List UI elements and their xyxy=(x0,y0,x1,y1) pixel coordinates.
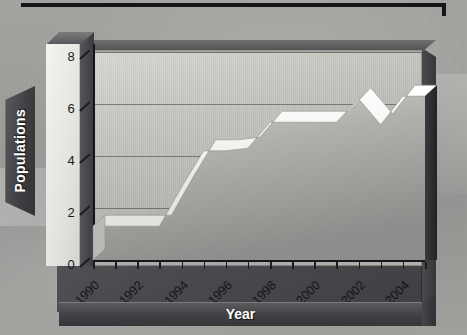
x-axis-tick xyxy=(270,262,272,269)
x-axis-tick xyxy=(182,262,184,269)
x-axis-tick xyxy=(248,262,250,269)
x-axis-tick xyxy=(226,262,228,269)
x-axis-tick xyxy=(204,262,206,269)
x-axis-tick xyxy=(314,262,316,269)
x-axis-tick xyxy=(425,262,427,269)
x-axis-tick xyxy=(359,262,361,269)
chart-container: 02468 19901992199419961998200020022004 Y… xyxy=(33,20,436,312)
x-axis-tick xyxy=(159,262,161,269)
x-axis-tick xyxy=(137,262,139,269)
x-axis-label-plate: Year xyxy=(59,302,422,326)
top-divider-rule-cap xyxy=(442,3,446,16)
y-axis-label: Populations xyxy=(12,109,28,192)
top-divider-rule xyxy=(21,3,446,7)
y-axis-label-tab: Populations xyxy=(5,86,35,216)
x-axis-tick xyxy=(381,262,383,269)
x-axis-tick xyxy=(336,262,338,269)
x-axis-tick xyxy=(292,262,294,269)
x-axis-tick xyxy=(403,262,405,269)
x-axis-tick xyxy=(115,262,117,269)
x-axis-tick xyxy=(93,262,95,269)
x-axis-label: Year xyxy=(226,306,256,322)
